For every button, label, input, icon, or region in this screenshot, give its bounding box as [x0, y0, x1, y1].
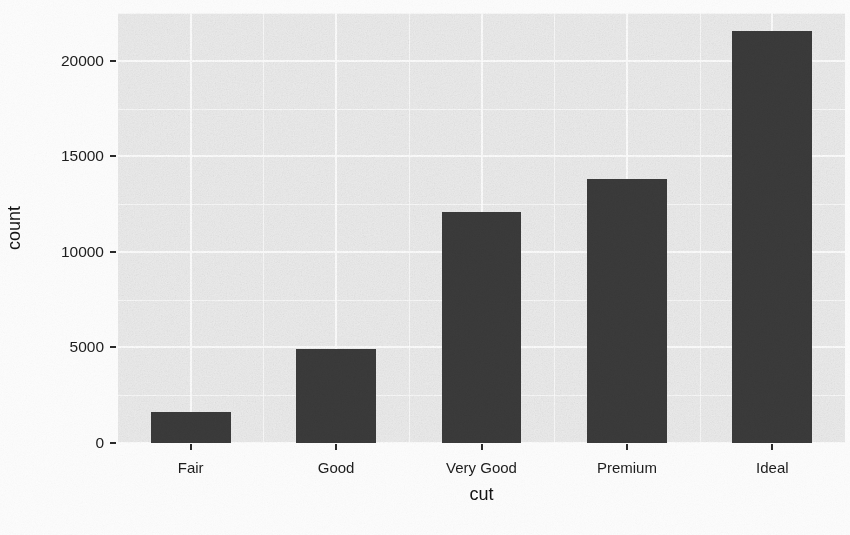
x-tick-label: Premium [597, 459, 657, 476]
x-tick-label: Ideal [756, 459, 789, 476]
x-tick-mark [771, 444, 773, 450]
gridline-minor-vertical [700, 13, 701, 443]
bar-very-good [442, 212, 522, 443]
x-axis-title: cut [118, 484, 845, 505]
gridline-minor-vertical [263, 13, 264, 443]
y-tick-label: 5000 [70, 338, 104, 356]
x-tick-label: Very Good [446, 459, 517, 476]
x-tick-label: Good [318, 459, 355, 476]
chart-figure: 05000100001500020000 cut count FairGoodV… [0, 0, 850, 535]
x-tick-mark [190, 444, 192, 450]
y-tick-mark [110, 155, 116, 157]
bar-premium [587, 179, 667, 443]
gridline-major-vertical [190, 13, 192, 443]
y-tick-mark [110, 251, 116, 253]
gridline-minor-vertical [409, 13, 410, 443]
y-axis-title: count [4, 206, 25, 250]
bar-fair [151, 412, 231, 443]
y-tick-label: 20000 [61, 52, 104, 70]
y-tick-mark [110, 346, 116, 348]
x-tick-mark [335, 444, 337, 450]
y-axis: 05000100001500020000 [0, 0, 104, 535]
x-tick-mark [626, 444, 628, 450]
x-tick-label: Fair [178, 459, 204, 476]
bar-ideal [732, 31, 812, 443]
y-tick-label: 0 [95, 434, 104, 452]
plot-panel [118, 13, 845, 443]
gridline-minor-vertical [554, 13, 555, 443]
bar-good [296, 349, 376, 443]
y-tick-label: 10000 [61, 243, 104, 261]
y-tick-mark [110, 60, 116, 62]
y-tick-label: 15000 [61, 147, 104, 165]
y-tick-mark [110, 442, 116, 444]
x-tick-mark [481, 444, 483, 450]
